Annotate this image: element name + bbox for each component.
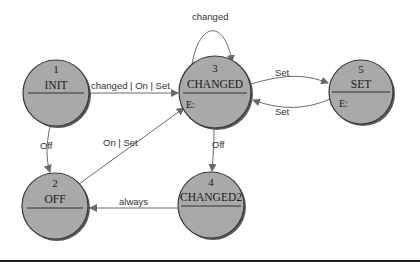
state-name: SET (351, 78, 371, 90)
transition-label-changed-to-set: Set (275, 67, 290, 78)
transition-label-init-to-changed: changed | On | Set (91, 80, 170, 91)
transition-label-changed-self: changed (192, 11, 228, 22)
state-node-set[interactable]: 5 SET E: (329, 60, 395, 126)
transition-label-init-to-off: Off (40, 140, 53, 151)
transition-label-off-to-changed: On | Set (103, 137, 138, 148)
state-name: CHANGED (187, 78, 243, 90)
state-node-changed2[interactable]: 4 CHANGED2 (178, 172, 246, 240)
state-diagram: changed | On | Set changed Set Set Off O… (0, 0, 420, 263)
transition-label-set-to-changed: Set (275, 106, 290, 117)
transition-set-to-changed[interactable] (253, 99, 330, 107)
state-name: INIT (45, 79, 68, 91)
state-entry-action: E: (186, 99, 195, 110)
transition-changed-to-set[interactable] (251, 76, 328, 84)
transition-label-changed2-to-off: always (119, 196, 148, 207)
state-number: 3 (212, 62, 218, 74)
state-number: 2 (52, 177, 58, 189)
state-name: CHANGED2 (180, 191, 242, 203)
state-entry-action: E: (339, 98, 348, 109)
state-number: 5 (358, 63, 364, 75)
state-node-changed[interactable]: 3 CHANGED E: (179, 56, 253, 130)
state-number: 1 (53, 63, 59, 75)
state-node-init[interactable]: 1 INIT (23, 60, 91, 128)
transition-label-changed-to-changed2: Off (212, 139, 225, 150)
state-number: 4 (208, 176, 214, 188)
state-name: OFF (44, 193, 65, 205)
